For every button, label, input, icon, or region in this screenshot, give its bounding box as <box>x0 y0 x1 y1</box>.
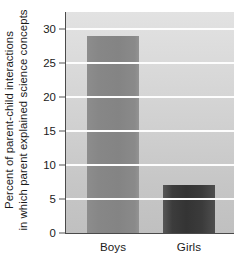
gridline-20 <box>66 96 234 98</box>
bar-girls <box>163 185 215 233</box>
y-tick-label-10: 10 <box>30 159 56 171</box>
gridline-5 <box>66 198 234 200</box>
gridline-30 <box>66 28 234 30</box>
y-axis-title-line-1: Percent of parent-child interactions <box>3 9 17 230</box>
y-tick-label-30: 30 <box>30 23 56 35</box>
y-axis-title: Percent of parent-child interactions in … <box>0 0 34 240</box>
y-tick-label-20: 20 <box>30 91 56 103</box>
x-axis-spine <box>65 233 234 234</box>
gridline-10 <box>66 164 234 166</box>
plot-area <box>66 12 234 233</box>
y-tick-label-0: 0 <box>30 227 56 239</box>
y-axis-title-text: Percent of parent-child interactions in … <box>3 9 30 230</box>
y-tick-label-15: 15 <box>30 125 56 137</box>
y-tick-label-5: 5 <box>30 193 56 205</box>
bar-boys <box>87 36 139 233</box>
y-axis-tick-labels: 051015202530 <box>30 0 56 258</box>
y-axis-spine <box>65 12 66 234</box>
y-tick-label-25: 25 <box>30 57 56 69</box>
gridline-25 <box>66 62 234 64</box>
gridline-15 <box>66 130 234 132</box>
bar-chart-figure: Percent of parent-child interactions in … <box>0 0 250 258</box>
x-category-label-boys: Boys <box>100 240 126 253</box>
y-axis-title-line-2: in which parent explained science concep… <box>17 9 31 230</box>
x-category-label-girls: Girls <box>177 240 201 253</box>
